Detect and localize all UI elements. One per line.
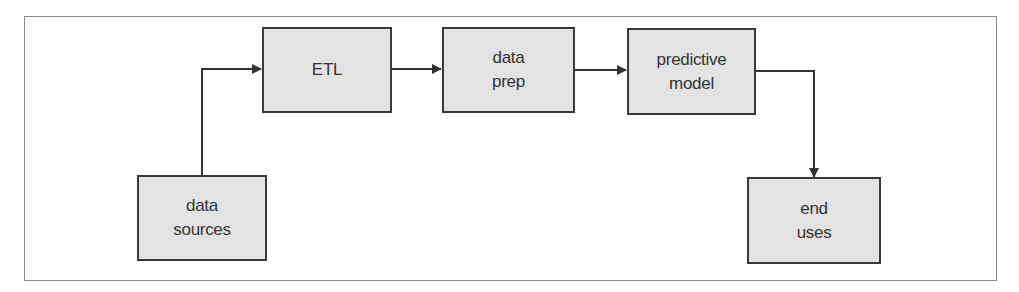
node-label: data sources bbox=[173, 194, 230, 242]
node-label: end uses bbox=[797, 197, 832, 245]
node-predictive-model: predictive model bbox=[627, 28, 756, 115]
node-end-uses: end uses bbox=[747, 177, 881, 264]
node-label: predictive model bbox=[657, 48, 727, 96]
edge-predictive-model-to-end-uses bbox=[756, 71, 814, 177]
node-data-prep: data prep bbox=[442, 27, 575, 113]
node-label: data prep bbox=[492, 46, 525, 94]
node-etl: ETL bbox=[262, 27, 392, 113]
edge-data-sources-to-etl bbox=[202, 69, 261, 175]
node-label: ETL bbox=[312, 58, 342, 82]
node-data-sources: data sources bbox=[137, 175, 267, 261]
